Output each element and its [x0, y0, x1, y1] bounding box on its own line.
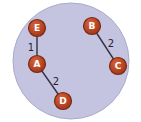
node-label: D	[59, 96, 66, 106]
edge-weight-label: 2	[108, 38, 114, 49]
node-A: A	[29, 56, 46, 73]
node-D: D	[55, 93, 72, 110]
node-label: C	[115, 61, 122, 71]
node-label: A	[34, 59, 41, 69]
node-B: B	[84, 18, 101, 35]
edge-weight-label: 2	[53, 76, 59, 87]
graph-diagram: 122 EADBC	[0, 0, 141, 122]
node-label: B	[89, 21, 96, 31]
node-C: C	[110, 58, 127, 75]
edge-weight-label: 1	[28, 42, 34, 53]
node-E: E	[29, 20, 46, 37]
node-label: E	[34, 23, 40, 33]
